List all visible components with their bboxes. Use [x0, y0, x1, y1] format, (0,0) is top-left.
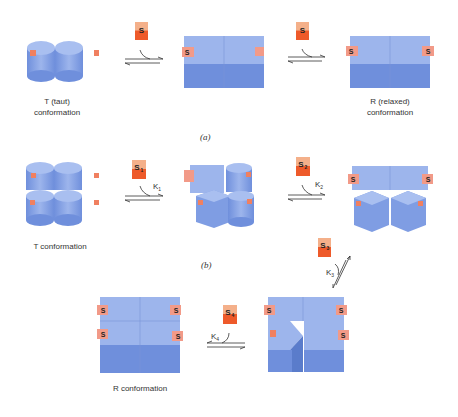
binding-site [255, 47, 264, 56]
ligand-s: S [296, 22, 309, 40]
rate-constant-k4: K4 [211, 332, 219, 342]
svg-text:1: 1 [141, 167, 144, 173]
svg-text:S: S [225, 308, 231, 317]
svg-text:S: S [300, 26, 306, 35]
ligand-s3: S 3 [318, 238, 331, 257]
svg-text:S: S [339, 307, 344, 314]
panel-label-b: (b) [201, 260, 212, 270]
intermediate-dimer-state: S [182, 36, 264, 88]
ligand-s: S [135, 22, 148, 40]
rate-constant-k3: K3 [326, 268, 334, 278]
three-bound-state: S S S [264, 297, 349, 372]
state-name: R (relaxed) [350, 96, 430, 107]
ligand-s4: S 4 [223, 305, 237, 324]
r-conformation-label: R conformation [94, 383, 186, 394]
equilibrium-arrow [125, 50, 163, 65]
ligand-s2: S 2 [296, 157, 310, 176]
t-state-label: T (taut) conformation [18, 96, 96, 118]
svg-text:S: S [139, 26, 145, 35]
svg-text:S: S [134, 163, 140, 172]
t-state-tetramer [26, 162, 99, 226]
state-subtitle: conformation [350, 107, 430, 118]
rate-constant-k2: K2 [315, 180, 323, 190]
svg-text:S: S [185, 49, 190, 56]
svg-text:S: S [101, 331, 106, 338]
state-name: T (taut) [18, 96, 96, 107]
svg-text:S: S [298, 160, 304, 169]
svg-text:S: S [349, 48, 354, 55]
svg-text:S: S [320, 241, 326, 250]
r-state-label: R (relaxed) conformation [350, 96, 430, 118]
t-conformation-label: T conformation [14, 241, 106, 252]
ligand-s1: S 1 [132, 160, 146, 179]
r-state-tetramer: S S S S [97, 297, 183, 373]
svg-text:S: S [341, 332, 346, 339]
svg-text:S: S [176, 333, 181, 340]
svg-text:S: S [174, 307, 179, 314]
svg-text:S: S [426, 176, 431, 183]
svg-text:S: S [101, 307, 106, 314]
binding-site [94, 50, 99, 56]
state-subtitle: conformation [18, 107, 96, 118]
binding-site [30, 50, 36, 56]
equilibrium-arrow [288, 49, 325, 63]
two-bound-state: S S [348, 166, 433, 232]
svg-text:2: 2 [305, 164, 308, 170]
panel-label-a: (a) [200, 132, 211, 142]
svg-text:4: 4 [232, 312, 235, 318]
rate-constant-k1: K1 [153, 182, 161, 192]
r-state-dimer: S S [346, 36, 434, 88]
equilibrium-arrow-k3 [333, 256, 350, 288]
svg-text:S: S [267, 307, 272, 314]
diagram-canvas: S S S S S [0, 0, 458, 417]
svg-text:S: S [426, 48, 431, 55]
svg-text:3: 3 [327, 245, 330, 251]
t-state-dimer [27, 41, 99, 82]
svg-text:S: S [351, 176, 356, 183]
one-bound-state [184, 163, 254, 228]
